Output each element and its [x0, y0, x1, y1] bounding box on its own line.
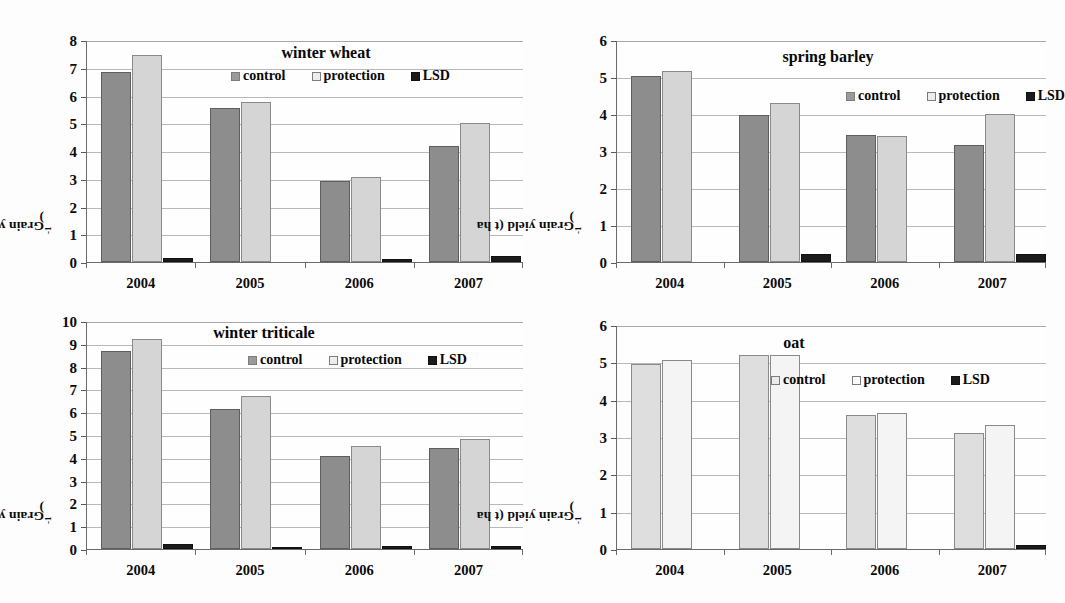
- x-tick-label: 2007: [454, 275, 483, 292]
- legend-swatch-protection-icon: [329, 356, 338, 365]
- legend-label-lsd: LSD: [440, 352, 467, 368]
- legend-label-lsd: LSD: [963, 372, 990, 388]
- gridline: [617, 41, 1046, 42]
- bar-lsd: [382, 259, 412, 262]
- y-tick-mark: [81, 413, 86, 414]
- x-tick-mark: [616, 263, 617, 268]
- x-axis: 2004200520062007: [616, 550, 1046, 588]
- bar-protection: [132, 55, 162, 262]
- y-tick-mark: [81, 69, 86, 70]
- x-tick-label: 2005: [235, 562, 264, 579]
- bar-control: [429, 448, 459, 549]
- legend-label-lsd: LSD: [423, 68, 450, 84]
- x-tick-mark: [414, 263, 415, 268]
- y-tick-mark: [611, 189, 616, 190]
- legend-swatch-protection-icon: [852, 376, 861, 385]
- legend-item-lsd: LSD: [428, 352, 467, 368]
- legend-item-control: control: [248, 352, 303, 368]
- bar-protection: [460, 439, 490, 549]
- y-axis-title: Grain yield (t ha-1): [30, 312, 48, 590]
- bar-lsd: [801, 254, 831, 262]
- legend-label-lsd: LSD: [1038, 88, 1065, 104]
- legend-item-protection: protection: [927, 88, 1000, 104]
- y-tick-labels: 0123456: [578, 312, 612, 590]
- y-tick-mark: [611, 115, 616, 116]
- x-tick-mark: [939, 550, 940, 555]
- x-tick-label: 2004: [655, 562, 684, 579]
- y-tick-mark: [611, 363, 616, 364]
- bar-lsd: [272, 547, 302, 550]
- legend-label-control: control: [783, 372, 826, 388]
- legend-item-control: control: [231, 68, 286, 84]
- bar-control: [429, 146, 459, 262]
- legend-item-lsd: LSD: [411, 68, 450, 84]
- bar-control: [101, 72, 131, 262]
- panel-title: winter triticale: [213, 324, 314, 342]
- gridline: [87, 322, 523, 323]
- x-tick-mark: [305, 550, 306, 555]
- bar-protection: [241, 396, 271, 549]
- y-tick-mark: [81, 152, 86, 153]
- bar-lsd: [1016, 254, 1046, 262]
- legend-label-protection: protection: [341, 352, 402, 368]
- bar-lsd: [1016, 545, 1046, 549]
- bar-control: [954, 433, 984, 549]
- x-tick-label: 2007: [978, 562, 1007, 579]
- legend: control protection LSD: [846, 88, 1065, 104]
- bar-control: [954, 145, 984, 262]
- y-tick-mark: [81, 322, 86, 323]
- legend-item-protection: protection: [852, 372, 925, 388]
- panel-title: winter wheat: [281, 44, 370, 62]
- panel-winter-wheat: Grain yield (t ha-1) 012345678 200420052…: [26, 26, 526, 301]
- y-axis-title: Grain yield (t ha-1): [560, 26, 578, 301]
- x-tick-mark: [522, 550, 523, 555]
- legend-swatch-control-icon: [248, 356, 257, 365]
- legend-item-protection: protection: [329, 352, 402, 368]
- legend-swatch-control-icon: [846, 92, 855, 101]
- y-tick-mark: [81, 345, 86, 346]
- legend-swatch-protection-icon: [312, 72, 321, 81]
- bar-protection: [132, 339, 162, 549]
- y-tick-label: 10: [62, 314, 82, 331]
- gridline: [617, 326, 1046, 327]
- x-tick-mark: [86, 550, 87, 555]
- bar-protection: [241, 102, 271, 262]
- panel-spring-barley: Grain yield (t ha-1) 0123456 20042005200…: [556, 26, 1052, 301]
- y-tick-mark: [611, 513, 616, 514]
- x-tick-mark: [724, 263, 725, 268]
- x-tick-mark: [195, 550, 196, 555]
- panel-title: spring barley: [782, 48, 873, 66]
- y-tick-mark: [81, 235, 86, 236]
- y-tick-mark: [81, 180, 86, 181]
- y-axis-title: Grain yield (t ha-1): [30, 26, 48, 301]
- bar-protection: [662, 360, 692, 549]
- bar-protection: [770, 103, 800, 262]
- bar-control: [101, 351, 131, 549]
- x-axis: 2004200520062007: [616, 263, 1046, 301]
- x-tick-mark: [305, 263, 306, 268]
- bar-lsd: [491, 256, 521, 262]
- legend-item-lsd: LSD: [951, 372, 990, 388]
- y-tick-mark: [611, 226, 616, 227]
- bar-protection: [351, 446, 381, 549]
- x-tick-mark: [724, 550, 725, 555]
- x-tick-mark: [522, 263, 523, 268]
- legend-item-control: control: [771, 372, 826, 388]
- x-axis: 2004200520062007: [86, 263, 523, 301]
- y-tick-mark: [611, 152, 616, 153]
- bar-protection: [985, 425, 1015, 549]
- legend-label-protection: protection: [939, 88, 1000, 104]
- legend: control protection LSD: [231, 68, 450, 84]
- x-tick-label: 2004: [126, 562, 155, 579]
- legend-swatch-control-icon: [771, 376, 780, 385]
- x-tick-mark: [616, 550, 617, 555]
- x-tick-label: 2006: [870, 275, 899, 292]
- legend-swatch-control-icon: [231, 72, 240, 81]
- y-tick-mark: [81, 550, 86, 551]
- panel-oat: Grain yield (t ha-1) 0123456 20042005200…: [556, 312, 1052, 590]
- panel-title: oat: [783, 334, 804, 352]
- bar-protection: [877, 136, 907, 262]
- legend-label-control: control: [243, 68, 286, 84]
- x-tick-mark: [831, 550, 832, 555]
- bar-lsd: [491, 546, 521, 549]
